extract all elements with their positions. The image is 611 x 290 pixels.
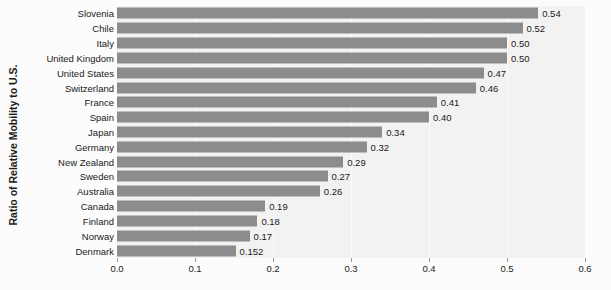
x-tick-mark: [273, 258, 274, 262]
bar: [117, 230, 250, 241]
bar-row: United States0.47: [0, 65, 611, 80]
bar-row: Chile0.52: [0, 21, 611, 36]
bar: [117, 8, 538, 19]
category-label: Germany: [75, 141, 114, 152]
bar-rows: Slovenia0.54Chile0.52Italy0.50United Kin…: [0, 6, 611, 258]
category-label: France: [84, 97, 114, 108]
bar: [117, 82, 476, 93]
bar-chart: Ratio of Relative Mobility to U.S. Slove…: [0, 0, 611, 290]
value-label: 0.54: [542, 8, 561, 19]
value-label: 0.47: [488, 67, 507, 78]
bar-row: France0.41: [0, 95, 611, 110]
bar-row: Finland0.18: [0, 214, 611, 229]
bar: [117, 67, 484, 78]
bar-row: Japan0.34: [0, 125, 611, 140]
x-axis: 0.00.10.20.30.40.50.6: [0, 258, 611, 290]
bar-row: United Kingdom0.50: [0, 50, 611, 65]
category-label: Japan: [88, 126, 114, 137]
bar: [117, 201, 265, 212]
category-label: Norway: [82, 230, 114, 241]
x-tick-label: 0.2: [266, 263, 279, 274]
bar: [117, 215, 257, 226]
value-label: 0.50: [511, 52, 530, 63]
bar-row: Italy0.50: [0, 36, 611, 51]
x-tick-label: 0.5: [500, 263, 513, 274]
category-label: Slovenia: [78, 8, 114, 19]
bar-row: Germany0.32: [0, 139, 611, 154]
x-tick-mark: [429, 258, 430, 262]
value-label: 0.50: [511, 38, 530, 49]
category-label: Spain: [90, 112, 114, 123]
bar-row: Norway0.17: [0, 228, 611, 243]
value-label: 0.52: [527, 23, 546, 34]
bar-row: Sweden0.27: [0, 169, 611, 184]
x-tick-label: 0.6: [578, 263, 591, 274]
x-tick-label: 0.3: [344, 263, 357, 274]
category-label: United Kingdom: [46, 52, 114, 63]
x-tick-mark: [195, 258, 196, 262]
bar: [117, 52, 507, 63]
x-tick-label: 0.0: [110, 263, 123, 274]
x-tick-mark: [117, 258, 118, 262]
value-label: 0.19: [269, 201, 288, 212]
x-tick-mark: [507, 258, 508, 262]
bar: [117, 126, 382, 137]
category-label: Finland: [83, 215, 114, 226]
x-tick-label: 0.1: [188, 263, 201, 274]
value-label: 0.152: [240, 245, 264, 256]
x-tick-mark: [585, 258, 586, 262]
value-label: 0.17: [254, 230, 273, 241]
bar: [117, 38, 507, 49]
bar-row: Switzerland0.46: [0, 80, 611, 95]
bar-row: Slovenia0.54: [0, 6, 611, 21]
value-label: 0.32: [371, 141, 390, 152]
value-label: 0.29: [347, 156, 366, 167]
bar: [117, 23, 523, 34]
bar: [117, 156, 343, 167]
bar-row: New Zealand0.29: [0, 154, 611, 169]
bar-row: Denmark0.152: [0, 243, 611, 258]
bar: [117, 245, 236, 256]
bar: [117, 97, 437, 108]
value-label: 0.41: [441, 97, 460, 108]
bar-row: Australia0.26: [0, 184, 611, 199]
bar-row: Spain0.40: [0, 110, 611, 125]
x-tick-mark: [351, 258, 352, 262]
category-label: Chile: [92, 23, 114, 34]
category-label: Australia: [77, 186, 114, 197]
bar: [117, 171, 328, 182]
bar-row: Canada0.19: [0, 199, 611, 214]
value-label: 0.27: [332, 171, 351, 182]
bar: [117, 112, 429, 123]
category-label: Sweden: [80, 171, 114, 182]
value-label: 0.34: [386, 126, 405, 137]
value-label: 0.18: [261, 215, 280, 226]
value-label: 0.26: [324, 186, 343, 197]
value-label: 0.46: [480, 82, 499, 93]
category-label: Italy: [97, 38, 114, 49]
bar: [117, 141, 367, 152]
category-label: New Zealand: [58, 156, 114, 167]
value-label: 0.40: [433, 112, 452, 123]
x-tick-label: 0.4: [422, 263, 435, 274]
category-label: United States: [57, 67, 114, 78]
bar: [117, 186, 320, 197]
category-label: Switzerland: [65, 82, 114, 93]
category-label: Denmark: [75, 245, 114, 256]
category-label: Canada: [81, 201, 114, 212]
